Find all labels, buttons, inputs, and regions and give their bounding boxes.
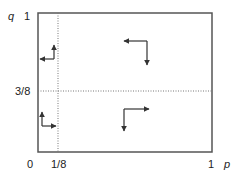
- x-tick-0: 0: [27, 158, 33, 170]
- plot-frame: [38, 13, 212, 152]
- x-tick-1-8: 1/8: [51, 158, 66, 170]
- arrows-top-right: [124, 41, 147, 65]
- y-tick-3-8: 3/8: [15, 85, 30, 97]
- arrows-bottom-left: [42, 112, 56, 126]
- arrows-top-left: [40, 45, 54, 59]
- y-tick-1: 1: [24, 10, 30, 22]
- y-axis-label: q: [8, 10, 15, 22]
- x-tick-1: 1: [208, 158, 214, 170]
- x-axis-label: p: [223, 158, 230, 170]
- phase-diagram: q 1 3/8 0 1/8 1 p: [0, 0, 247, 182]
- arrows-bottom-right: [124, 109, 149, 131]
